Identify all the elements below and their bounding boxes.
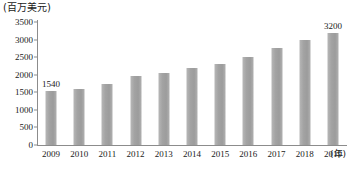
bar-slot [65, 22, 93, 145]
x-axis-tick-label: 2009 [37, 148, 65, 160]
x-axis-line [37, 145, 347, 146]
bar-chart: (百万美元) 0500100015002000250030003500 1540… [0, 0, 361, 178]
y-axis-tick-label: 3500 [15, 18, 33, 27]
x-axis-tick-label: 2015 [206, 148, 234, 160]
x-axis-tick-label: 2012 [122, 148, 150, 160]
bar-value-label: 3200 [324, 22, 342, 31]
bar-slot [234, 22, 262, 145]
bar-slot: 3200 [319, 22, 347, 145]
bar [243, 57, 254, 145]
x-axis-tick-label: 2017 [262, 148, 290, 160]
bar [271, 48, 282, 145]
x-axis-tick-label: 2016 [234, 148, 262, 160]
bar [299, 40, 310, 145]
bar-slot [150, 22, 178, 145]
bar [102, 84, 113, 146]
x-axis-tick-label: 2011 [93, 148, 121, 160]
x-axis-tick-label: 2013 [150, 148, 178, 160]
bar-slot: 1540 [37, 22, 65, 145]
y-axis-tick-label: 2500 [15, 53, 33, 62]
y-axis-tick-label: 1000 [15, 105, 33, 114]
bar [130, 76, 141, 145]
bar-value-label: 1540 [42, 80, 60, 89]
y-axis-tick-label: 1500 [15, 88, 33, 97]
bar-slot [122, 22, 150, 145]
bar-slot [93, 22, 121, 145]
bar [186, 68, 197, 145]
x-axis-tick-label: 2014 [178, 148, 206, 160]
x-axis-tick-label: 2018 [291, 148, 319, 160]
y-axis-tick-label: 3000 [15, 35, 33, 44]
bar [215, 64, 226, 145]
x-axis-ticks: 2009201020112012201320142015201620172018… [37, 148, 347, 164]
y-axis-tick-label: 2000 [15, 70, 33, 79]
y-axis-unit-caption: (百万美元) [3, 2, 51, 14]
bar-series: 15403200 [37, 22, 347, 145]
plot-area: 0500100015002000250030003500 15403200 [37, 22, 347, 145]
bar [158, 73, 169, 145]
bar-slot [291, 22, 319, 145]
bar [74, 89, 85, 145]
bar-slot [178, 22, 206, 145]
bar-slot [206, 22, 234, 145]
y-axis-tick-label: 0 [29, 141, 34, 150]
x-axis-tick-label: 2010 [65, 148, 93, 160]
x-axis-unit-label: (年) [330, 148, 346, 160]
y-axis-tick-label: 500 [20, 123, 34, 132]
bar [46, 91, 57, 145]
bar-slot [262, 22, 290, 145]
bar [327, 33, 338, 145]
